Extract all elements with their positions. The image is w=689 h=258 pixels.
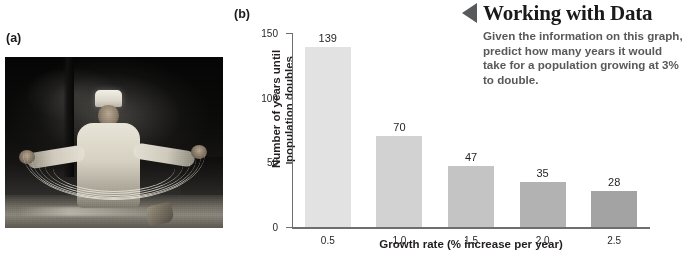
y-axis-line	[292, 33, 293, 227]
bar: 352.0	[520, 182, 566, 227]
photo-noodle-strand	[45, 165, 183, 194]
y-axis-tick-label: 100	[261, 92, 278, 103]
photo-chef-left-hand	[19, 150, 35, 164]
y-axis-tick-label: 50	[267, 157, 278, 168]
y-axis-tick-label: 150	[261, 28, 278, 39]
photo-chef-jacket	[77, 123, 140, 208]
photo-dark-right-shape	[181, 157, 223, 203]
panel-label-b: (b)	[234, 7, 250, 21]
photo-noodle-strand	[23, 153, 205, 200]
photo-noodle-strand	[53, 168, 175, 192]
y-axis-tick: 0	[286, 227, 292, 228]
photo-chef-right-hand	[191, 145, 207, 159]
y-axis-tick: 50	[286, 162, 292, 163]
left-triangle-icon	[462, 3, 477, 23]
photo-noodle-strand	[27, 156, 201, 199]
panel-label-a: (a)	[6, 31, 21, 45]
bar-value-label: 28	[608, 176, 620, 188]
photo-utensil-shape	[145, 202, 175, 227]
x-axis-title: Growth rate (% increase per year)	[292, 238, 650, 250]
photo-chef-hat	[95, 90, 122, 107]
bar: 701.0	[376, 136, 422, 227]
y-axis-title-line1: Number of years until	[270, 50, 282, 168]
photo-chef-face	[98, 105, 119, 127]
photo-film-grain-overlay	[5, 57, 223, 228]
noodle-chef-photograph	[5, 57, 223, 228]
x-axis-line	[292, 227, 650, 229]
panel-a-photo-container: (a)	[0, 0, 232, 258]
y-axis-tick: 100	[286, 98, 292, 99]
photo-chef-left-arm	[26, 145, 86, 170]
photo-post-shape	[63, 57, 74, 177]
y-axis-tick: 150	[286, 33, 292, 34]
bar-value-label: 139	[319, 32, 337, 44]
bar-value-label: 47	[465, 151, 477, 163]
y-axis-tick-label: 0	[272, 222, 278, 233]
photo-noodle-strand	[38, 162, 190, 196]
photo-background-layer	[5, 57, 223, 228]
bar: 471.5	[448, 166, 494, 227]
bar-value-label: 35	[536, 167, 548, 179]
photo-counter-highlight	[17, 207, 167, 216]
photo-noodle-strand	[32, 159, 196, 198]
callout-body-text: Given the information on this graph, pre…	[483, 29, 687, 87]
photo-chef-right-arm	[132, 142, 196, 168]
bar: 282.5	[591, 191, 637, 227]
bar-value-label: 70	[393, 121, 405, 133]
callout-title: Working with Data	[483, 2, 652, 24]
photo-counter-shape	[5, 195, 223, 228]
callout-header: Working with Data	[462, 2, 687, 24]
working-with-data-callout: Working with Data Given the information …	[462, 2, 687, 87]
bar: 1390.5	[305, 47, 351, 227]
